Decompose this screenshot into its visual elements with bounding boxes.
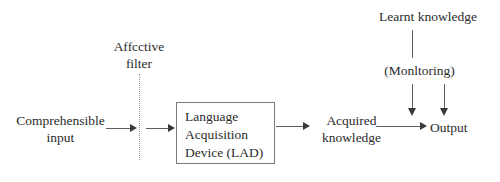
connector-input-to-filter	[106, 128, 131, 129]
output-label: Output	[430, 120, 468, 135]
arrow-right-filter-icon	[168, 124, 175, 132]
monitoring-label: (Monltoring)	[384, 63, 455, 78]
arrow-down-learnt-icon	[440, 108, 448, 116]
node-affective-filter: Affcctive filter	[99, 38, 179, 72]
learnt-knowledge-label: Learnt knowledge	[379, 9, 477, 24]
node-acquired-knowledge: Acquired knowledge	[310, 112, 393, 146]
arrow-right-output-icon	[420, 122, 427, 130]
node-output: Output	[430, 119, 496, 136]
affective-filter-label-line2: filter	[99, 55, 179, 72]
node-language-acquisition-device: Language Acquisition Device (LAD)	[176, 102, 275, 164]
connector-acquired-to-output	[376, 126, 421, 127]
connector-learnt-to-monitoring	[412, 30, 413, 58]
arrow-down-monitoring-icon	[408, 108, 416, 116]
comprehensible-input-label-line1: Comprehensible	[8, 112, 113, 129]
node-comprehensible-input: Comprehensible input	[8, 112, 113, 146]
connector-learnt-to-output-line	[444, 84, 445, 109]
lad-box-text: Language Acquisition Device (LAD)	[185, 108, 263, 162]
comprehensible-input-label-line2: input	[8, 129, 113, 146]
lad-label-line1: Language	[185, 108, 263, 126]
arrow-right-input-icon	[130, 124, 137, 132]
connector-filter-to-lad	[146, 128, 169, 129]
node-monitoring: (Monltoring)	[372, 62, 467, 79]
connector-monitoring-to-output-line	[412, 84, 413, 109]
connector-lad-to-acquired	[276, 126, 304, 127]
arrow-right-lad-icon	[303, 122, 310, 130]
node-learnt-knowledge: Learnt knowledge	[363, 8, 493, 25]
affective-filter-label-line1: Affcctive	[99, 38, 179, 55]
lad-label-line3: Device (LAD)	[185, 144, 263, 162]
acquired-knowledge-label-line2: knowledge	[310, 129, 393, 146]
lad-label-line2: Acquisition	[185, 126, 263, 144]
affective-filter-dotted-line	[139, 74, 140, 160]
diagram-canvas: Learnt knowledge (Monltoring) Affcctive …	[0, 0, 500, 182]
